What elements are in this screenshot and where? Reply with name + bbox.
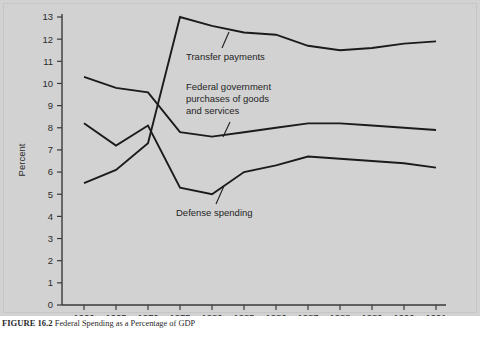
annotation-federal-purchases-line2: purchases of goods <box>186 93 269 104</box>
y-tick-label: 5 <box>48 189 53 200</box>
y-tick-label: 10 <box>42 78 53 89</box>
annotation-federal-purchases-line3: and services <box>186 105 240 116</box>
y-tick-label: 4 <box>48 211 53 222</box>
y-tick-label: 13 <box>42 11 53 22</box>
annotation-federal-purchases-line1: Federal government <box>186 81 271 92</box>
y-axis-tick-labels: 012345678910111213 <box>42 11 53 310</box>
figure-caption-body: Federal Spending as a Percentage of GDP <box>55 319 195 328</box>
figure-container: 012345678910111213 196019651970197519801… <box>0 0 480 350</box>
x-axis-ticks <box>84 305 436 310</box>
annotation-defense-spending: Defense spending <box>176 207 253 218</box>
y-tick-label: 12 <box>42 34 53 45</box>
y-axis-title: Percent <box>16 143 27 176</box>
figure-caption-number: FIGURE 16.2 <box>2 318 53 328</box>
figure-caption: FIGURE 16.2 Federal Spending as a Percen… <box>0 316 480 350</box>
y-tick-label: 3 <box>48 233 53 244</box>
y-tick-label: 0 <box>48 299 53 310</box>
transfer-payments-leader <box>222 32 229 48</box>
figure-caption-text: FIGURE 16.2 Federal Spending as a Percen… <box>2 318 478 329</box>
y-tick-label: 9 <box>48 100 53 111</box>
y-axis-ticks <box>57 17 62 305</box>
annotation-transfer-payments: Transfer payments <box>186 51 265 62</box>
y-tick-label: 8 <box>48 122 53 133</box>
line-chart: 012345678910111213 196019651970197519801… <box>0 0 480 316</box>
y-tick-label: 7 <box>48 144 53 155</box>
series-line-defense-spending <box>84 123 436 194</box>
y-tick-label: 2 <box>48 255 53 266</box>
y-tick-label: 6 <box>48 166 53 177</box>
chart-plate: 012345678910111213 196019651970197519801… <box>0 0 480 316</box>
y-tick-label: 11 <box>43 56 53 67</box>
y-tick-label: 1 <box>48 277 53 288</box>
